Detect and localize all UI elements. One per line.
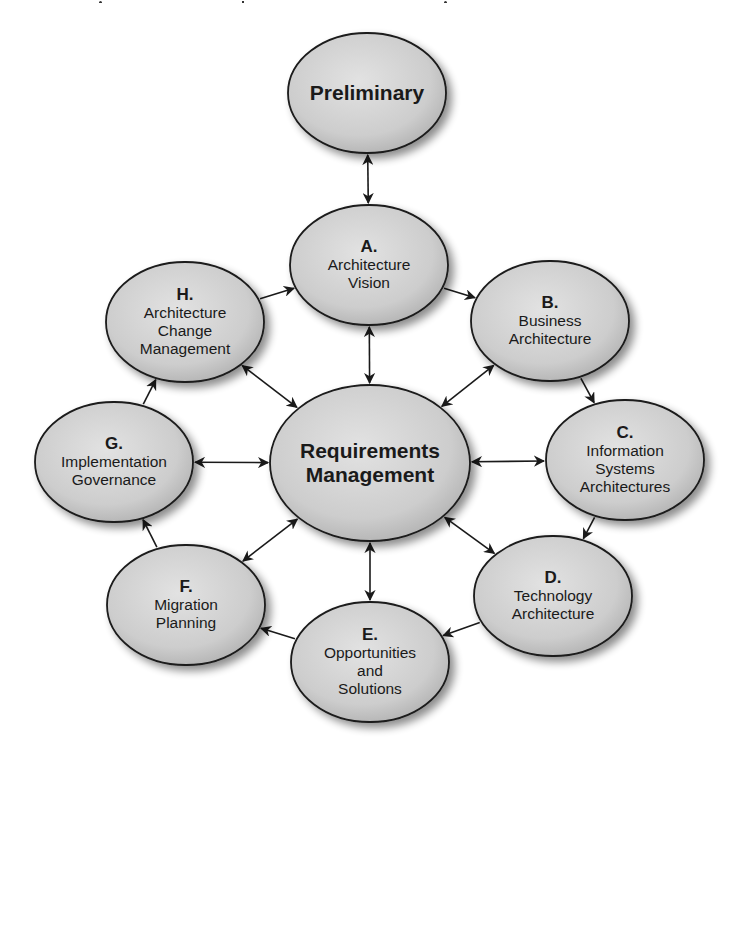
node-preliminary: Preliminary: [288, 33, 446, 153]
node-label: Technology: [514, 587, 593, 604]
node-label: Change: [158, 322, 212, 339]
node-label: B.: [542, 293, 559, 312]
bidirectional-arrow-requirements-to-b: [442, 365, 494, 406]
node-label: Architecture: [512, 605, 595, 622]
arrow-c-to-d: [583, 517, 594, 538]
arrow-f-to-g: [143, 520, 157, 547]
arrow-a-to-b: [444, 288, 475, 298]
node-label: A.: [361, 237, 378, 256]
node-label: Vision: [348, 274, 390, 291]
node-label: Architecture: [509, 330, 592, 347]
bidirectional-arrow-preliminary-to-a: [368, 155, 369, 203]
node-label: Preliminary: [310, 81, 425, 104]
node-f: F.MigrationPlanning: [107, 545, 265, 665]
node-label: C.: [617, 423, 634, 442]
node-label: Architectures: [580, 478, 671, 495]
adm-cycle-diagram: PreliminaryA.ArchitectureVisionB.Busines…: [0, 0, 744, 940]
node-label: Solutions: [338, 680, 402, 697]
node-a: A.ArchitectureVision: [290, 205, 448, 325]
node-label: H.: [177, 285, 194, 304]
node-label: Implementation: [61, 453, 167, 470]
node-label: Governance: [72, 471, 156, 488]
node-label: Management: [140, 340, 231, 357]
node-e: E.OpportunitiesandSolutions: [291, 602, 449, 722]
node-label: F.: [179, 577, 192, 596]
node-label: Systems: [595, 460, 655, 477]
node-label: Management: [306, 463, 434, 486]
bidirectional-arrow-requirements-to-d: [445, 517, 495, 553]
node-label: Opportunities: [324, 644, 416, 661]
bidirectional-arrow-requirements-to-h: [242, 366, 297, 408]
node-label: Architecture: [144, 304, 227, 321]
node-g: G.ImplementationGovernance: [35, 402, 193, 522]
node-label: E.: [362, 625, 378, 644]
bidirectional-arrow-requirements-to-c: [472, 461, 544, 462]
node-h: H.ArchitectureChangeManagement: [106, 262, 264, 382]
node-label: Migration: [154, 596, 218, 613]
node-label: G.: [105, 434, 123, 453]
arrow-g-to-h: [143, 380, 155, 404]
arrow-e-to-f: [261, 628, 295, 638]
node-label: Requirements: [300, 439, 440, 462]
bidirectional-arrow-requirements-to-f: [243, 519, 297, 561]
arrow-b-to-c: [581, 378, 594, 402]
node-label: Planning: [156, 614, 216, 631]
node-label: Architecture: [328, 256, 411, 273]
arrow-d-to-e: [443, 622, 480, 635]
node-label: D.: [545, 568, 562, 587]
node-label: Information: [586, 442, 664, 459]
node-d: D.TechnologyArchitecture: [474, 536, 632, 656]
node-requirements: RequirementsManagement: [270, 385, 470, 541]
arrow-h-to-a: [260, 288, 294, 298]
node-label: Business: [519, 312, 582, 329]
node-label: and: [357, 662, 383, 679]
node-b: B.BusinessArchitecture: [471, 261, 629, 381]
node-c: C.InformationSystemsArchitectures: [546, 400, 704, 520]
